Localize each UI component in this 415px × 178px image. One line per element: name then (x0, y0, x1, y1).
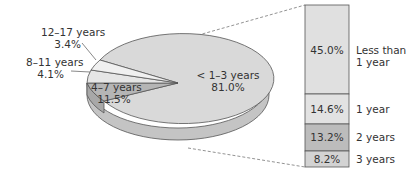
bar-label-less-than-1-line1: Less than (356, 44, 406, 56)
bar-value-3-years: 8.2% (305, 153, 349, 165)
bar-label-less-than-1-line2: 1 year (356, 56, 406, 68)
label-4-7-value: 11.5% (91, 93, 137, 105)
label-4-7: 4–7 years 11.5% (91, 81, 137, 105)
bar-value-2-years: 13.2% (305, 131, 349, 143)
label-1-3-value: 81.0% (192, 81, 264, 93)
bar-label-2-years: 2 years (356, 131, 395, 143)
label-1-3-name: < 1–3 years (192, 69, 264, 81)
label-12-17: 12–17 years 3.4% (41, 26, 87, 50)
bar-label-3-years: 3 years (356, 153, 395, 165)
label-4-7-name: 4–7 years (91, 81, 137, 93)
bar-value-1-year: 14.6% (305, 103, 349, 115)
label-12-17-name: 12–17 years (41, 26, 87, 38)
bar-value-less-than-1: 45.0% (305, 44, 349, 56)
label-12-17-value: 3.4% (41, 38, 87, 50)
bar-label-less-than-1: Less than 1 year (356, 44, 406, 68)
connector-top (188, 5, 305, 38)
leader-8-11 (71, 71, 90, 72)
bar-label-1-year: 1 year (356, 103, 389, 115)
label-8-11-name: 8–11 years (26, 56, 70, 68)
label-1-3: < 1–3 years 81.0% (192, 69, 264, 93)
label-8-11: 8–11 years 4.1% (26, 56, 70, 80)
label-8-11-value: 4.1% (26, 68, 70, 80)
connector-bottom (188, 148, 305, 167)
